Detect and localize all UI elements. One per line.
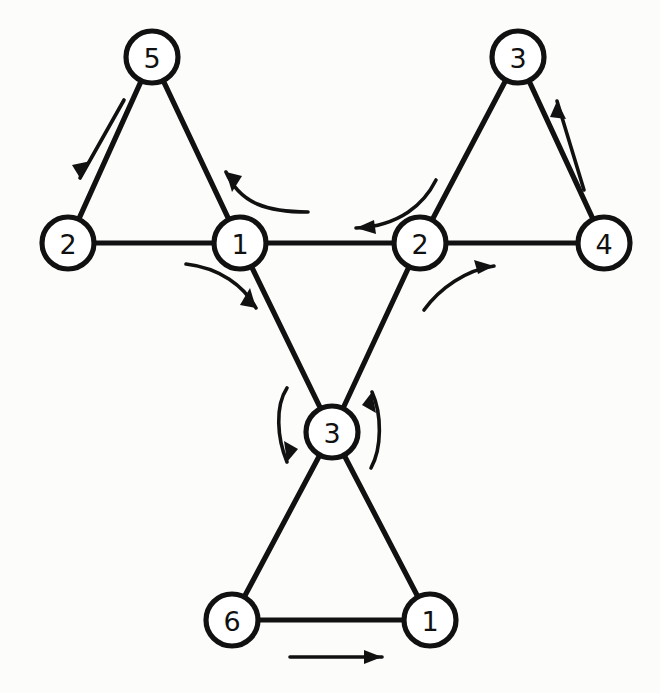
- node-3-top-right-triangle[interactable]: 3: [492, 31, 544, 83]
- node-5-top-left-triangle[interactable]: 5: [126, 31, 178, 83]
- diagram-canvas: Node-link graph of three triangles joine…: [0, 0, 660, 693]
- node-6-bottom-triangle[interactable]: 6: [206, 594, 258, 646]
- flow-arrow-6-to-1-right-head: [364, 650, 382, 664]
- edge-3-hub-to-1-bottom: [343, 453, 419, 598]
- flow-arrows-layer: [72, 100, 584, 664]
- node-circle[interactable]: [578, 217, 630, 269]
- edge-3-top-to-2-hub: [431, 78, 507, 222]
- edges-layer: [78, 78, 594, 620]
- flow-arrow-4-to-3-upright-head: [550, 101, 566, 119]
- flow-arrow-4-to-3-upright: [550, 101, 584, 190]
- node-2-center-hub[interactable]: 2: [394, 217, 446, 269]
- node-4-top-right-triangle[interactable]: 4: [578, 217, 630, 269]
- flow-arrow-1-hub-turn-up-left-head: [226, 172, 242, 192]
- flow-arrow-2-hub-turn-left-head: [356, 220, 376, 234]
- node-2-top-left-triangle[interactable]: 2: [42, 217, 94, 269]
- node-circle[interactable]: [404, 594, 456, 646]
- node-1-center-hub[interactable]: 1: [214, 217, 266, 269]
- node-circle[interactable]: [214, 217, 266, 269]
- edge-5-to-1-hub: [162, 79, 229, 222]
- node-3-center-hub[interactable]: 3: [306, 406, 358, 458]
- flow-arrow-3-hub-up-right: [362, 392, 379, 468]
- flow-arrow-2-hub-turn-up-right-shaft: [424, 266, 494, 310]
- node-circle[interactable]: [394, 217, 446, 269]
- node-circle[interactable]: [42, 217, 94, 269]
- node-circle[interactable]: [126, 31, 178, 83]
- node-1-bottom-triangle[interactable]: 1: [404, 594, 456, 646]
- node-circle[interactable]: [206, 594, 258, 646]
- flow-arrow-6-to-1-right: [290, 650, 382, 664]
- edge-5-to-2-left: [78, 79, 142, 221]
- flow-arrow-3-hub-down-left: [279, 388, 298, 462]
- nodes-layer: 521324361: [42, 31, 630, 646]
- edge-3-hub-to-6: [243, 453, 320, 599]
- edge-3-top-to-4: [528, 79, 594, 221]
- flow-arrow-5-to-2-downleft-head: [72, 161, 91, 178]
- edge-2-hub-to-3-hub: [342, 265, 410, 410]
- node-circle[interactable]: [306, 406, 358, 458]
- node-circle[interactable]: [492, 31, 544, 83]
- flow-arrow-1-hub-turn-up-left: [226, 172, 308, 212]
- graph-diagram: Node-link graph of three triangles joine…: [0, 0, 660, 693]
